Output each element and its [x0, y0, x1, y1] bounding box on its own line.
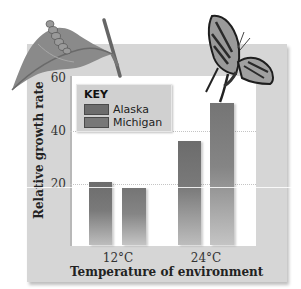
caterpillar-on-leaf-icon — [8, 14, 128, 94]
x-axis-label: Temperature of environment — [70, 265, 256, 279]
x-category-12c: 12°C — [88, 251, 148, 265]
bar-michigan-24c — [210, 103, 234, 245]
legend-label-alaska: Alaska — [113, 103, 149, 116]
bar-alaska-12c — [89, 182, 112, 245]
bar-michigan-12c — [122, 188, 146, 245]
legend-item-michigan: Michigan — [84, 116, 162, 128]
legend-swatch-michigan — [84, 117, 109, 128]
bar-alaska-24c — [178, 141, 201, 245]
swallowtail-butterfly-icon — [198, 12, 278, 104]
x-category-24c: 24°C — [176, 251, 236, 265]
artifact-line — [0, 187, 301, 188]
y-axis-label: Relative growth rate — [32, 99, 46, 219]
legend-swatch-alaska — [84, 104, 109, 115]
legend-item-alaska: Alaska — [84, 103, 149, 115]
legend-label-michigan: Michigan — [113, 116, 162, 129]
